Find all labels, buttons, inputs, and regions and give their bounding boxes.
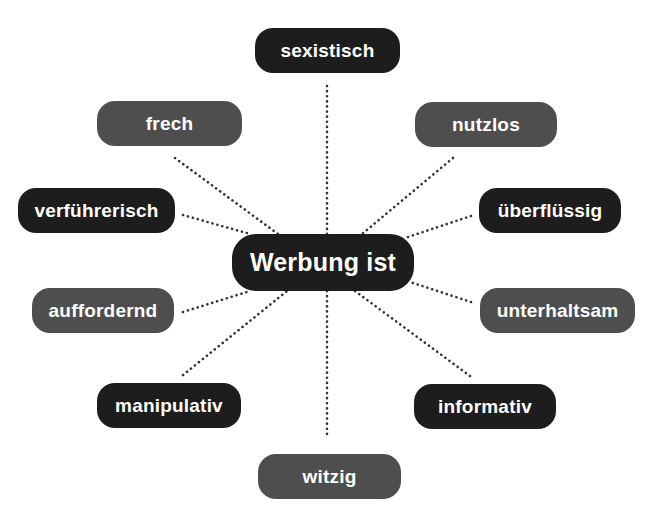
node-nutzlos: nutzlos [415,102,557,147]
node-label: frech [146,113,193,135]
connector-auffordernd [183,291,250,312]
connector-manipulativ [183,291,287,375]
node-verfuehrerisch: verführerisch [18,188,175,233]
node-label: witzig [303,466,357,488]
node-ueberfluessig: überflüssig [479,188,621,233]
node-label: unterhaltsam [497,300,619,322]
center-node-label: Werbung ist [250,248,396,277]
node-sexistisch: sexistisch [255,28,400,73]
node-frech: frech [97,101,242,146]
node-label: nutzlos [452,114,520,136]
center-node: Werbung ist [232,234,414,291]
connector-verfuehrerisch [183,215,250,234]
node-label: sexistisch [281,40,375,62]
node-witzig: witzig [258,454,401,499]
node-label: informativ [438,396,532,418]
node-label: verführerisch [34,200,158,222]
node-auffordernd: auffordernd [32,288,174,333]
node-label: überflüssig [498,200,603,222]
connector-nutzlos [362,158,453,234]
node-manipulativ: manipulativ [97,383,241,428]
connector-frech [175,158,278,234]
connector-informativ [355,291,470,376]
connector-ueberfluessig [405,216,471,238]
node-unterhaltsam: unterhaltsam [480,288,635,333]
node-informativ: informativ [414,384,556,429]
connector-unterhaltsam [410,282,471,302]
node-label: auffordernd [49,300,158,322]
node-label: manipulativ [115,395,223,417]
